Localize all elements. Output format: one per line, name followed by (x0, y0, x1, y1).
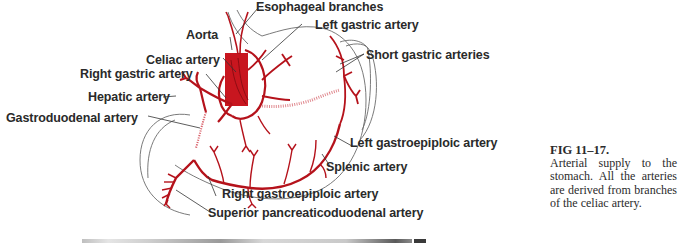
page-edge-strip (82, 239, 412, 243)
page-edge-mark (414, 239, 426, 243)
figure-caption: FIG 11–17. Arterial supply to the stomac… (550, 144, 677, 210)
label-hepatic-artery: Hepatic artery (88, 90, 170, 104)
caption-body: Arterial supply to the stomach. All the … (550, 157, 677, 210)
stomach-outline (140, 10, 376, 215)
label-aorta: Aorta (186, 28, 218, 42)
label-gastroduodenal-artery: Gastroduodenal artery (6, 111, 138, 125)
gastroduodenal-dotted (196, 112, 206, 148)
label-esophageal-branches: Esophageal branches (256, 0, 383, 14)
label-left-gastric-artery: Left gastric artery (315, 18, 419, 32)
label-short-gastric-arteries: Short gastric arteries (366, 48, 490, 62)
label-splenic-artery: Splenic artery (326, 160, 407, 174)
label-celiac-artery: Celiac artery (146, 53, 220, 67)
label-right-gastric-artery: Right gastric artery (80, 67, 193, 81)
label-right-gastroepiploic-artery: Right gastroepiploic artery (222, 187, 378, 201)
label-left-gastroepiploic-artery: Left gastroepiploic artery (350, 136, 497, 150)
label-superior-pancreaticoduodenal-artery: Superior pancreaticoduodenal artery (208, 206, 423, 220)
anatomy-figure: Esophageal branches Left gastric artery … (0, 0, 680, 243)
aorta-shape (225, 53, 248, 106)
